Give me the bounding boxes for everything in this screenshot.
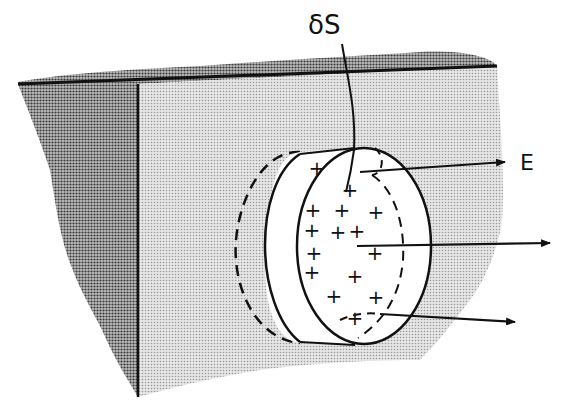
charge-plus: +: [349, 219, 366, 243]
charge-plus: +: [326, 284, 343, 308]
field-label: E: [520, 150, 534, 175]
surface-element-label: δS: [308, 10, 340, 40]
gaussian-pillbox-diagram: +++++++++++++++ δS E: [0, 0, 565, 414]
charge-plus: +: [368, 200, 385, 224]
charge-plus: +: [347, 264, 364, 288]
charge-plus: +: [330, 220, 347, 244]
charge-plus: +: [304, 218, 321, 242]
charge-plus: +: [309, 156, 326, 180]
charge-plus: +: [347, 306, 364, 330]
conductor-side-face: [18, 84, 138, 397]
charge-plus: +: [304, 260, 321, 284]
charge-plus: +: [368, 285, 385, 309]
